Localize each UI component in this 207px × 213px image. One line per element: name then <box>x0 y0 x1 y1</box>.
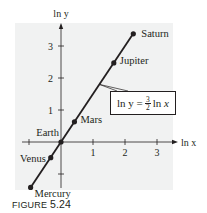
x-tick-label: 3 <box>155 147 160 158</box>
figure-caption: FIGURE 5.24 <box>12 198 71 210</box>
data-point-jupiter <box>111 60 116 65</box>
point-label-saturn: Saturn <box>141 28 169 39</box>
y-tick-label: 2 <box>48 73 53 84</box>
equation-fraction: 3 2 <box>145 96 151 111</box>
equation-box: ln y = 3 2 ln x <box>110 91 176 115</box>
data-point-earth <box>58 139 63 144</box>
fraction-numerator: 3 <box>146 96 150 103</box>
data-point-mars <box>72 119 77 124</box>
point-label-mars: Mars <box>80 114 102 125</box>
y-axis-label: ln y <box>53 8 68 19</box>
data-point-saturn <box>131 31 136 36</box>
equation-lhs: ln y = <box>117 97 143 109</box>
x-tick-label: 2 <box>123 147 128 158</box>
x-axis-arrow-icon <box>172 140 178 144</box>
x-tick-label: 1 <box>91 147 96 158</box>
equation-rhs-var: x <box>164 97 169 109</box>
x-axis-label: ln x <box>181 137 196 148</box>
data-point-mercury <box>28 185 33 190</box>
y-tick-label: 3 <box>48 41 53 52</box>
caption-number: 5.24 <box>50 198 71 210</box>
point-label-jupiter: Jupiter <box>120 55 149 66</box>
y-tick-label: 1 <box>48 105 53 116</box>
point-label-earth: Earth <box>36 127 59 138</box>
point-label-venus: Venus <box>20 153 46 164</box>
equation-rhs-fn: ln <box>153 97 162 109</box>
data-point-venus <box>48 155 53 160</box>
caption-prefix: FIGURE <box>12 200 47 210</box>
fraction-denominator: 2 <box>146 104 150 111</box>
